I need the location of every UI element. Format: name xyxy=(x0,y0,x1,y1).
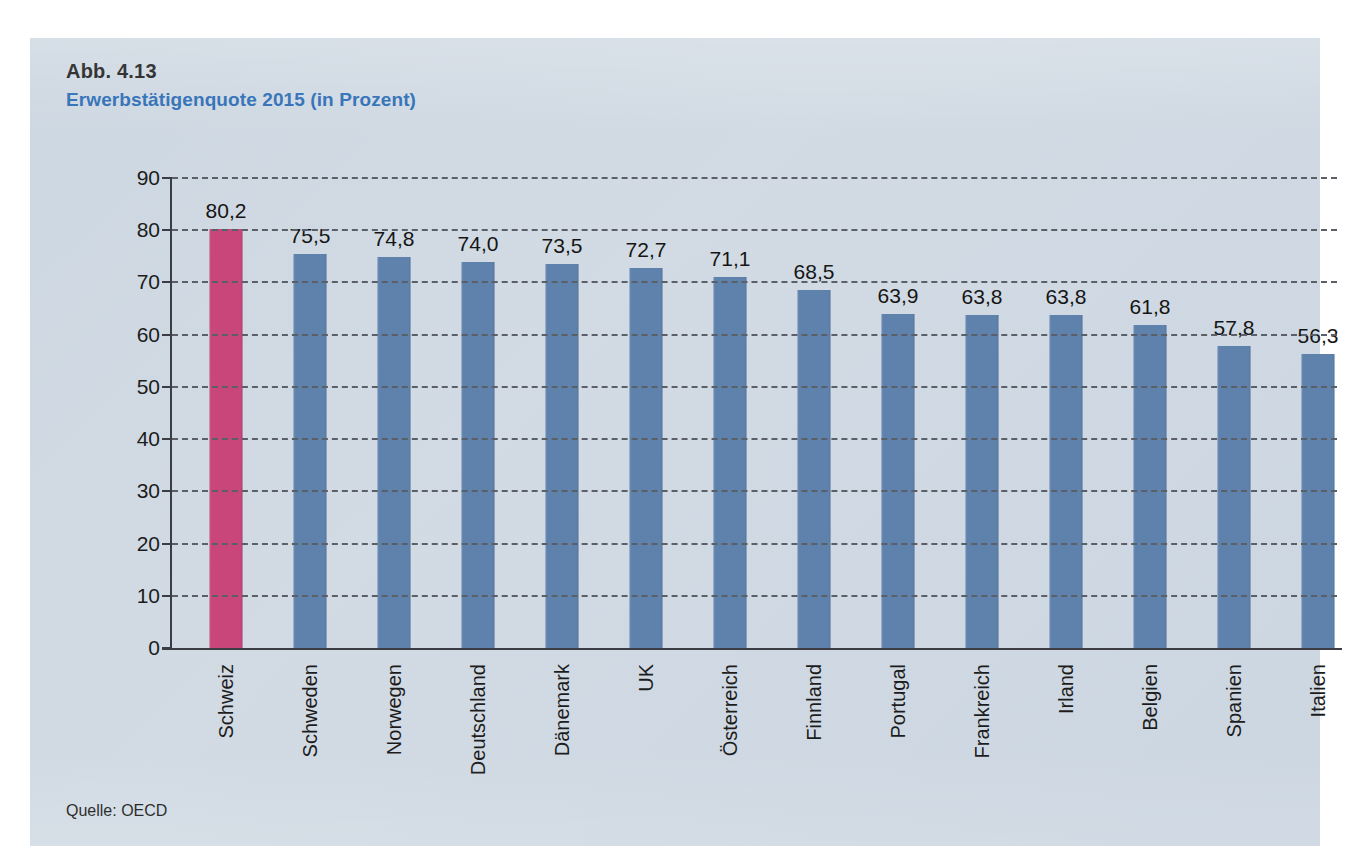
y-axis-tick xyxy=(162,595,172,597)
x-axis-label-slot: Norwegen xyxy=(352,664,436,834)
bar[interactable] xyxy=(966,315,999,648)
y-axis-tick xyxy=(162,490,172,492)
x-axis-tick-label: Belgien xyxy=(1139,664,1162,731)
x-axis-label-slot: UK xyxy=(604,664,688,834)
x-axis-label-slot: Finnland xyxy=(772,664,856,834)
bar-value-label: 63,8 xyxy=(962,285,1003,309)
bar[interactable] xyxy=(1050,315,1083,648)
y-axis-tick-label: 30 xyxy=(137,479,160,503)
bar[interactable] xyxy=(1302,354,1335,648)
x-axis-tick-label: Norwegen xyxy=(383,664,406,755)
bar-group[interactable]: 63,8 xyxy=(1024,178,1108,648)
bar-group[interactable]: 74,0 xyxy=(436,178,520,648)
bar[interactable] xyxy=(378,257,411,648)
x-axis-label-slot: Belgien xyxy=(1108,664,1192,834)
bar[interactable] xyxy=(1134,325,1167,648)
figure-number: Abb. 4.13 xyxy=(66,60,416,83)
x-axis-label-slot: Schweiz xyxy=(184,664,268,834)
bar[interactable] xyxy=(462,262,495,648)
bar-group[interactable]: 63,8 xyxy=(940,178,1024,648)
x-axis-tick-label: Finnland xyxy=(803,664,826,741)
bar[interactable] xyxy=(294,254,327,648)
x-axis-tick-label: Spanien xyxy=(1223,664,1246,737)
x-axis-label-slot: Portugal xyxy=(856,664,940,834)
bar-group[interactable]: 73,5 xyxy=(520,178,604,648)
x-axis-tick-label: Irland xyxy=(1055,664,1078,714)
y-axis-labels: 0102030405060708090 xyxy=(124,178,160,648)
x-axis-tick-label: Portugal xyxy=(887,664,910,739)
bar-group[interactable]: 80,2 xyxy=(184,178,268,648)
bar[interactable] xyxy=(546,264,579,648)
y-axis-tick-label: 40 xyxy=(137,427,160,451)
bar-value-label: 80,2 xyxy=(206,199,247,223)
bar-value-label: 75,5 xyxy=(290,224,331,248)
bar-group[interactable]: 56,3 xyxy=(1276,178,1346,648)
gridline xyxy=(172,229,1337,231)
bar-value-label: 61,8 xyxy=(1130,295,1171,319)
figure-title-block: Abb. 4.13 Erwerbstätigenquote 2015 (in P… xyxy=(66,60,416,111)
y-axis-tick-label: 20 xyxy=(137,532,160,556)
x-axis-label-slot: Schweden xyxy=(268,664,352,834)
bar-value-label: 74,0 xyxy=(458,232,499,256)
gridline xyxy=(172,334,1337,336)
bar-group[interactable]: 75,5 xyxy=(268,178,352,648)
bar-group[interactable]: 72,7 xyxy=(604,178,688,648)
x-axis-tick-label: UK xyxy=(635,664,658,692)
y-axis-tick-label: 0 xyxy=(148,636,160,660)
bar-value-label: 73,5 xyxy=(542,234,583,258)
bar-group[interactable]: 61,8 xyxy=(1108,178,1192,648)
y-axis-tick xyxy=(162,229,172,231)
y-axis-tick-label: 70 xyxy=(137,270,160,294)
x-axis-label-slot: Spanien xyxy=(1192,664,1276,834)
gridline xyxy=(172,438,1337,440)
figure-panel: Abb. 4.13 Erwerbstätigenquote 2015 (in P… xyxy=(30,38,1320,846)
bar[interactable] xyxy=(1218,346,1251,648)
bar-group[interactable]: 71,1 xyxy=(688,178,772,648)
y-axis-tick xyxy=(162,438,172,440)
bar[interactable] xyxy=(714,277,747,648)
x-axis-labels: SchweizSchwedenNorwegenDeutschlandDänema… xyxy=(172,664,1337,834)
x-axis-label-slot: Österreich xyxy=(688,664,772,834)
bar[interactable] xyxy=(882,314,915,648)
x-axis-tick-label: Österreich xyxy=(719,664,742,756)
bar[interactable] xyxy=(630,268,663,648)
bar-value-label: 71,1 xyxy=(710,247,751,271)
page-title: Erwerbstätigenquote 2015 (in Prozent) xyxy=(66,89,416,111)
x-axis-tick-label: Deutschland xyxy=(467,664,490,775)
x-axis-tick-label: Dänemark xyxy=(551,664,574,756)
bar-group[interactable]: 63,9 xyxy=(856,178,940,648)
bar-value-label: 56,3 xyxy=(1298,324,1339,348)
x-axis-label-slot: Frankreich xyxy=(940,664,1024,834)
chart-plot-area: 0102030405060708090 80,275,574,874,073,5… xyxy=(124,178,1314,698)
y-axis-tick-label: 10 xyxy=(137,584,160,608)
x-axis-tick-label: Italien xyxy=(1307,664,1330,717)
bar-series: 80,275,574,874,073,572,771,168,563,963,8… xyxy=(172,178,1337,648)
x-axis-label-slot: Italien xyxy=(1276,664,1346,834)
gridline xyxy=(172,595,1337,597)
y-axis-tick xyxy=(162,177,172,179)
y-axis-tick-label: 50 xyxy=(137,375,160,399)
y-axis-tick xyxy=(162,334,172,336)
y-axis-tick xyxy=(162,281,172,283)
y-axis-tick xyxy=(162,386,172,388)
x-axis-label-slot: Deutschland xyxy=(436,664,520,834)
y-axis-tick xyxy=(162,543,172,545)
x-axis-line xyxy=(162,648,1342,650)
bar-group[interactable]: 68,5 xyxy=(772,178,856,648)
y-axis-tick-label: 80 xyxy=(137,218,160,242)
x-axis-tick-label: Frankreich xyxy=(971,664,994,758)
gridline xyxy=(172,543,1337,545)
bar-value-label: 72,7 xyxy=(626,238,667,262)
bar-value-label: 63,8 xyxy=(1046,285,1087,309)
x-axis-label-slot: Dänemark xyxy=(520,664,604,834)
x-axis-tick-label: Schweiz xyxy=(215,664,238,738)
x-axis-label-slot: Irland xyxy=(1024,664,1108,834)
bar-group[interactable]: 74,8 xyxy=(352,178,436,648)
bar-group[interactable]: 57,8 xyxy=(1192,178,1276,648)
gridline xyxy=(172,386,1337,388)
bar-value-label: 57,8 xyxy=(1214,316,1255,340)
source-note: Quelle: OECD xyxy=(66,802,167,820)
gridline xyxy=(172,281,1337,283)
x-axis-tick-label: Schweden xyxy=(299,664,322,757)
y-axis-tick-label: 60 xyxy=(137,323,160,347)
